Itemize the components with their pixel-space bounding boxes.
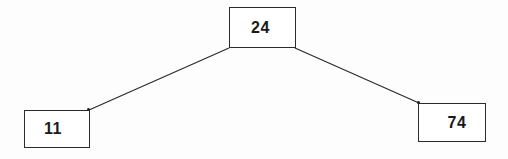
tree-node-right-child[interactable]: 74 [418, 103, 486, 142]
tree-node-root-label: 24 [251, 20, 274, 36]
tree-node-left-child-label: 11 [44, 121, 70, 137]
tree-diagram-canvas: 24 11 74 [0, 0, 508, 159]
tree-node-left-child[interactable]: 11 [24, 110, 90, 148]
tree-node-right-child-label: 74 [438, 115, 467, 131]
tree-node-root[interactable]: 24 [229, 7, 296, 48]
edge-root-to-right [295, 48, 419, 103]
edge-root-to-left [89, 48, 229, 110]
